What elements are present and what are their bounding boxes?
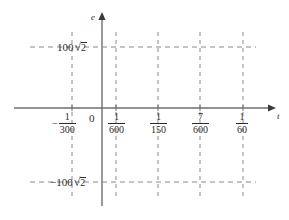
y-axis-arrowhead [98, 12, 105, 20]
y-tick-label-positive-amplitude: 100 √ 2 [57, 41, 87, 54]
amplitude-coefficient-positive: 100 [57, 42, 74, 53]
x-tick-label-7-600: 7 600 [191, 112, 209, 135]
radicand-negative: 2 [80, 177, 86, 189]
numerator-1-60: 1 [238, 112, 247, 123]
radical-negative: √ 2 [74, 176, 87, 189]
numerator-7-600: 7 [196, 112, 205, 123]
axes-and-gridlines-svg [0, 0, 289, 220]
x-axis-label: t [277, 112, 280, 121]
x-tick-sign-minus-1-300: − [52, 118, 58, 129]
x-tick-label-1-60: 1 60 [235, 112, 248, 135]
denominator-1-600: 600 [108, 125, 125, 136]
denominator-1-60: 60 [236, 125, 248, 136]
numerator-1-150: 1 [154, 112, 163, 123]
numerator-1-600: 1 [112, 112, 121, 123]
coordinate-axes-figure: e t 0 100 √ 2 − 100 √ 2 − 1 300 1 [0, 0, 289, 220]
radical-sign-negative: √ [74, 176, 81, 188]
fraction-1-150: 1 150 [150, 112, 167, 135]
fraction-1-600: 1 600 [108, 112, 125, 135]
fraction-minus-1-300: 1 300 [59, 112, 76, 135]
origin-label: 0 [89, 113, 95, 124]
x-axis-arrowhead [268, 104, 276, 111]
fraction-1-60: 1 60 [236, 112, 248, 135]
y-tick-label-negative-amplitude: − 100 √ 2 [50, 176, 86, 189]
amplitude-coefficient-negative: 100 [56, 177, 73, 188]
denominator-minus-1-300: 300 [59, 125, 76, 136]
x-tick-label-1-150: 1 150 [149, 112, 167, 135]
fraction-7-600: 7 600 [192, 112, 209, 135]
denominator-1-150: 150 [150, 125, 167, 136]
numerator-minus-1-300: 1 [63, 112, 72, 123]
y-axis-label: e [91, 13, 95, 22]
x-tick-label-minus-1-300: − 1 300 [52, 112, 76, 135]
x-tick-label-1-600: 1 600 [107, 112, 125, 135]
radical-positive: √ 2 [75, 41, 88, 54]
denominator-7-600: 600 [192, 125, 209, 136]
radicand-positive: 2 [81, 42, 87, 54]
radical-sign-positive: √ [75, 41, 82, 53]
